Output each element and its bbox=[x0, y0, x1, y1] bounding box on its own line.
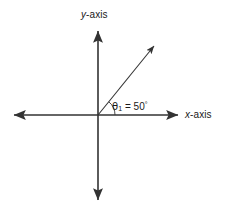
degree-symbol: ° bbox=[145, 101, 148, 108]
angle-value: 50 bbox=[134, 101, 145, 112]
y-axis-label: y-axis bbox=[81, 9, 108, 21]
angle-measure-label: θ1 = 50° bbox=[112, 99, 148, 115]
angle-diagram-figure: y-axis x-axis θ1 = 50° bbox=[0, 0, 226, 211]
y-axis-label-suffix: -axis bbox=[86, 9, 108, 20]
x-axis-label-suffix: -axis bbox=[190, 109, 212, 120]
x-axis-label: x-axis bbox=[185, 109, 212, 121]
equals-sign: = bbox=[122, 101, 133, 112]
